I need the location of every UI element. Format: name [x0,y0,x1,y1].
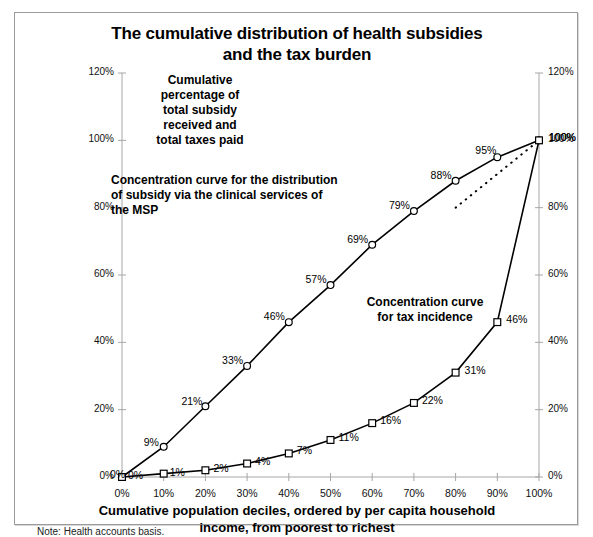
x-axis-label-80: 80% [434,487,478,499]
chart-note: Note: Health accounts basis. [37,526,164,537]
x-axis-label-20: 20% [183,487,227,499]
cumulative-axis-note-line-2: percentage of [120,88,280,103]
tax-point-marker [285,450,292,457]
y-axis-label-right-120: 120% [548,66,592,77]
y-axis-label-left-60: 60% [70,268,114,279]
tax-data-label-10: 1% [170,466,185,478]
subsidy-data-label-40: 46% [264,310,285,322]
y-axis-label-left-120: 120% [70,66,114,77]
subsidy-data-label-90: 95% [475,144,496,156]
y-axis-label-right-40: 40% [548,335,592,346]
tax-data-label-80: 31% [465,364,486,376]
x-axis-label-60: 60% [350,487,394,499]
subsidy-point-marker [244,363,251,370]
cumulative-axis-note-line-3: total subsidy [120,103,280,118]
x-axis-label-30: 30% [225,487,269,499]
tax-point-marker [202,467,209,474]
y-axis-label-left-0: 0% [70,470,114,481]
x-axis-label-100: 100% [517,487,561,499]
tax-data-label-70: 22% [422,394,443,406]
subsidy-point-marker [452,177,459,184]
chart-title-line-1: The cumulative distribution of health su… [15,23,579,44]
tax-data-label-90: 46% [506,313,527,325]
tax-point-marker [327,437,334,444]
y-axis-label-left-80: 80% [70,201,114,212]
annotation-cumulative-axis-note: Cumulativepercentage oftotal subsidyrece… [120,73,280,148]
y-axis-label-right-0: 0% [548,470,592,481]
subsidy-data-label-30: 33% [222,354,243,366]
tax-point-marker [536,137,543,144]
x-axis-label-0: 0% [100,487,144,499]
y-axis-label-right-20: 20% [548,403,592,414]
subsidy-data-label-20: 21% [181,395,202,407]
chart-frame: The cumulative distribution of health su… [14,12,578,525]
x-axis-title-line-1: Cumulative population deciles, ordered b… [55,502,539,519]
x-axis-label-50: 50% [309,487,353,499]
subsidy-data-label-60: 69% [347,233,368,245]
x-axis-label-10: 10% [142,487,186,499]
subsidy-point-marker [327,282,334,289]
tax-point-marker [452,369,459,376]
tax-data-label-40: 7% [297,444,312,456]
tax-point-marker [411,400,418,407]
tax-point-marker [244,460,251,467]
tax-data-label-60: 16% [380,414,401,426]
tax-point-marker [160,470,167,477]
y-axis-label-left-40: 40% [70,335,114,346]
cumulative-axis-note-line-1: Cumulative [120,73,280,88]
subsidy-curve-label-line-2: of subsidy via the clinical services of [111,188,401,203]
subsidy-data-label-10: 9% [144,436,159,448]
x-axis-label-70: 70% [392,487,436,499]
subsidy-data-label-80: 88% [431,169,452,181]
tax-curve-label-line-1: Concentration curve [345,295,505,310]
subsidy-curve-label-line-3: the MSP [111,203,401,218]
tax-data-label-20: 2% [213,462,228,474]
subsidy-point-marker [202,403,209,410]
subsidy-point-marker [160,443,167,450]
tax-data-label-0: 0% [128,469,143,481]
subsidy-point-marker [369,241,376,248]
subsidy-point-marker [285,319,292,326]
subsidy-data-label-50: 57% [306,273,327,285]
tax-data-label-100: 100% [549,131,576,143]
y-axis-label-right-80: 80% [548,201,592,212]
x-axis-label-90: 90% [475,487,519,499]
cumulative-axis-note-line-5: total taxes paid [120,133,280,148]
tax-point-marker [369,420,376,427]
subsidy-point-marker [411,208,418,215]
tax-curve-label-line-2: for tax incidence [345,310,505,325]
annotation-subsidy-curve-label: Concentration curve for the distribution… [111,173,401,218]
y-axis-label-left-100: 100% [70,133,114,144]
subsidy-data-label-0: 0% [110,468,125,480]
tax-data-label-50: 11% [339,431,359,443]
cumulative-axis-note-line-4: received and [120,118,280,133]
annotation-tax-curve-label: Concentration curvefor tax incidence [345,295,505,325]
tax-data-label-30: 4% [255,455,270,467]
x-axis-label-40: 40% [267,487,311,499]
y-axis-label-right-60: 60% [548,268,592,279]
subsidy-curve-label-line-1: Concentration curve for the distribution [111,173,401,188]
y-axis-label-left-20: 20% [70,403,114,414]
